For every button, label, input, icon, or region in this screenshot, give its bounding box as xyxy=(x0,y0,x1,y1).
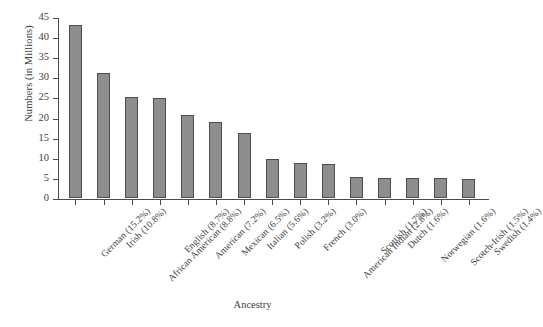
bar xyxy=(97,73,110,198)
x-axis-tick xyxy=(272,200,273,205)
y-axis-tick-label: 30 xyxy=(39,71,50,82)
bar xyxy=(209,122,222,198)
y-axis-tick-label: 20 xyxy=(39,112,50,123)
y-axis-tick: 35 xyxy=(53,58,58,59)
bar xyxy=(322,164,335,198)
y-axis-tick-label: 40 xyxy=(39,31,50,42)
x-axis-tick xyxy=(356,200,357,205)
y-axis-tick: 15 xyxy=(53,139,58,140)
x-axis-tick xyxy=(385,200,386,205)
x-axis-tick xyxy=(328,200,329,205)
y-axis-tick-label: 35 xyxy=(39,51,50,62)
bar xyxy=(434,178,447,198)
x-axis-tick xyxy=(132,200,133,205)
x-axis-tick xyxy=(441,200,442,205)
y-axis-tick: 0 xyxy=(53,199,58,200)
bar xyxy=(69,25,82,198)
x-axis-tick xyxy=(300,200,301,205)
x-axis-line xyxy=(58,199,489,200)
bar xyxy=(294,163,307,198)
x-axis-tick xyxy=(75,200,76,205)
y-axis-tick: 25 xyxy=(53,98,58,99)
bar xyxy=(125,97,138,198)
y-axis-tick: 20 xyxy=(53,119,58,120)
y-axis-tick-label: 10 xyxy=(39,152,50,163)
x-axis-tick xyxy=(244,200,245,205)
y-axis-tick: 5 xyxy=(53,179,58,180)
y-axis-tick-label: 5 xyxy=(44,172,49,183)
y-axis-line xyxy=(58,18,59,200)
x-axis-title: Ancestry xyxy=(0,299,505,310)
y-axis-tick-label: 15 xyxy=(39,132,50,143)
x-axis-tick xyxy=(188,200,189,205)
x-axis-tick xyxy=(413,200,414,205)
plot-area: 051015202530354045 German (15.2%)Irish (… xyxy=(58,18,488,199)
y-axis-title: Numbers (in Millions) xyxy=(23,0,34,154)
bar xyxy=(181,115,194,198)
bar xyxy=(462,179,475,198)
x-axis-category-label: Scotch-Irish (1.5%) xyxy=(468,206,529,267)
x-axis-tick xyxy=(104,200,105,205)
x-axis-category-label-text: Scotch-Irish (1.5%) xyxy=(468,206,529,267)
y-axis-tick-label: 0 xyxy=(44,192,49,203)
y-axis-tick: 40 xyxy=(53,38,58,39)
bar xyxy=(378,178,391,198)
y-axis-tick-label: 25 xyxy=(39,91,50,102)
bar xyxy=(266,159,279,198)
bar xyxy=(350,177,363,198)
y-axis-tick-label: 45 xyxy=(39,11,50,22)
y-axis-tick: 45 xyxy=(53,18,58,19)
bar xyxy=(406,178,419,199)
y-axis-tick: 30 xyxy=(53,78,58,79)
bar xyxy=(153,98,166,198)
x-axis-tick xyxy=(469,200,470,205)
x-axis-tick xyxy=(160,200,161,205)
bar xyxy=(238,133,251,198)
y-axis-tick: 10 xyxy=(53,159,58,160)
x-axis-tick xyxy=(216,200,217,205)
